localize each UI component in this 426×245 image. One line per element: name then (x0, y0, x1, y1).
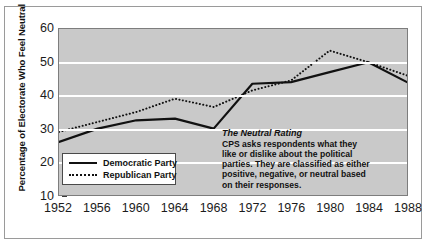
x-tick-label: 1964 (161, 201, 189, 215)
y-tick-label: 40 (14, 89, 54, 102)
y-axis-ticks: 605040302010 (10, 28, 54, 196)
y-tick-mark (62, 196, 67, 197)
legend-item-label: Republican Party (103, 170, 177, 180)
y-tick-label: 30 (14, 123, 54, 136)
x-tick-label: 1980 (316, 201, 344, 215)
gridline (59, 95, 407, 97)
annotation-line: parties. They are classified as either (222, 159, 394, 169)
legend-item-label: Democratic Party (103, 158, 177, 168)
chart-figure: Percentage of Electorate Who Feel Neutra… (0, 0, 426, 245)
annotation-callout: The Neutral Rating CPS asks respondents … (222, 128, 394, 190)
annotation-line: positive, negative, or neutral based (222, 169, 394, 179)
annotation-body: CPS asks respondents what theylike or di… (222, 139, 394, 190)
x-axis-ticks: 1952195619601964196819721976198019841988 (58, 201, 408, 221)
annotation-line: like or dislike about the political (222, 149, 394, 159)
x-tick-label: 1956 (83, 201, 111, 215)
annotation-title: The Neutral Rating (222, 128, 394, 138)
x-tick-label: 1960 (122, 201, 150, 215)
x-tick-label: 1984 (355, 201, 383, 215)
x-tick-label: 1968 (200, 201, 228, 215)
chart-legend: Democratic PartyRepublican Party (62, 153, 176, 185)
dotted-line-icon (68, 170, 98, 180)
x-tick-label: 1952 (44, 201, 72, 215)
y-tick-label: 60 (14, 22, 54, 35)
x-tick-label: 1976 (277, 201, 305, 215)
annotation-line: on their responses. (222, 180, 394, 190)
solid-line-icon (68, 158, 98, 168)
legend-item: Democratic Party (68, 157, 170, 169)
y-tick-label: 20 (14, 156, 54, 169)
x-tick-label: 1988 (394, 201, 422, 215)
legend-item: Republican Party (68, 169, 170, 181)
annotation-line: CPS asks respondents what they (222, 139, 394, 149)
y-tick-label: 50 (14, 56, 54, 69)
x-tick-label: 1972 (239, 201, 267, 215)
gridline (59, 62, 407, 64)
